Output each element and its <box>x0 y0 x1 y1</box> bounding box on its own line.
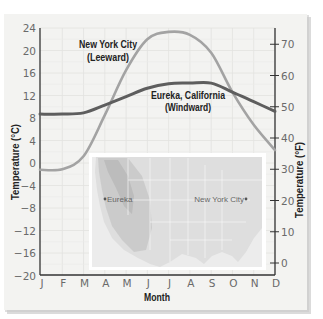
annotation-nyc-title: New York City <box>79 38 138 50</box>
left-tick-label: 8 <box>29 112 36 124</box>
eureka-dot <box>104 198 107 201</box>
left-tick-label: 12 <box>23 90 36 102</box>
right-tick-label: 50 <box>281 101 294 113</box>
climate-chart: Eureka New York City 24201612840−4−8−12−… <box>0 0 323 319</box>
left-tick-label: −8 <box>21 202 36 214</box>
left-tick-label: −4 <box>21 180 37 192</box>
left-tick-label: −12 <box>14 225 36 237</box>
right-tick-label: 0 <box>281 257 288 269</box>
month-tick-label: J <box>39 277 43 289</box>
month-tick-label: N <box>251 277 259 289</box>
nyc-dot <box>245 198 248 201</box>
month-tick-label: O <box>229 277 237 289</box>
left-tick-label: 0 <box>29 157 36 169</box>
month-tick-label: M <box>80 277 89 289</box>
month-tick-label: M <box>123 277 132 289</box>
right-axis-title: Temperature (°F) <box>293 142 305 218</box>
month-tick-label: J <box>146 277 150 289</box>
month-tick-label: F <box>60 277 66 289</box>
map-label-eureka: Eureka <box>107 195 133 204</box>
month-tick-label: A <box>187 277 195 289</box>
right-tick-label: 60 <box>281 70 294 82</box>
left-axis-title: Temperature (°C) <box>9 124 21 200</box>
left-tick-label: 16 <box>23 67 37 79</box>
right-tick-label: 70 <box>281 38 294 50</box>
month-tick-label: A <box>102 277 110 289</box>
x-axis-title: Month <box>144 291 170 303</box>
left-tick-label: 20 <box>23 45 36 57</box>
left-tick-label: −16 <box>14 247 36 259</box>
month-tick-label: D <box>272 277 280 289</box>
inset-map: Eureka New York City <box>89 153 266 270</box>
left-tick-label: 4 <box>29 135 36 147</box>
annotation-eureka-subtitle: (Windward) <box>165 101 211 113</box>
month-tick-label: J <box>167 277 171 289</box>
month-tick-label: S <box>209 277 216 289</box>
left-tick-label: 24 <box>23 22 37 34</box>
right-tick-label: 10 <box>281 226 294 238</box>
map-label-nyc: New York City <box>194 195 244 204</box>
left-tick-label: −20 <box>14 270 36 282</box>
annotation-eureka-title: Eureka, California <box>151 89 226 101</box>
annotation-nyc-subtitle: (Leeward) <box>87 51 129 63</box>
